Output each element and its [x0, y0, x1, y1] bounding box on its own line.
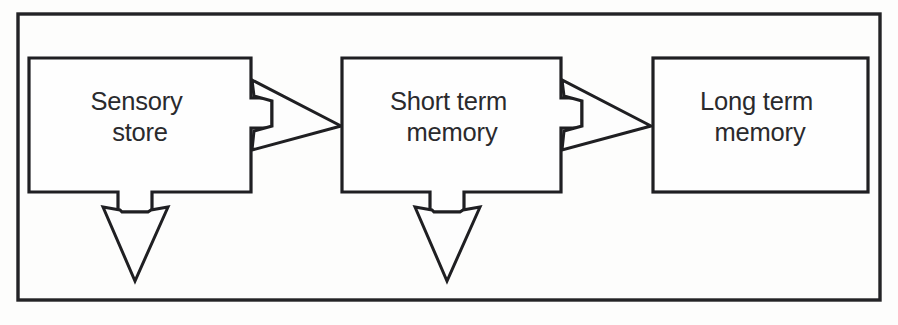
memory-model-figure: Sensory store Short term memory Long ter… [0, 0, 898, 325]
long-term-memory-label-line1: Long term [700, 87, 813, 115]
short-term-memory-label-line2: memory [407, 118, 498, 146]
long-term-memory-label-line2: memory [715, 118, 806, 146]
sensory-store-label-line1: Sensory [90, 87, 183, 115]
short-term-memory-label-line1: Short term [390, 87, 507, 115]
sensory-decay-arrow [103, 207, 168, 281]
sensory-store-label-line2: store [112, 118, 168, 146]
diagram-canvas: Sensory store Short term memory Long ter… [0, 0, 898, 325]
short-term-decay-arrow [415, 207, 480, 281]
